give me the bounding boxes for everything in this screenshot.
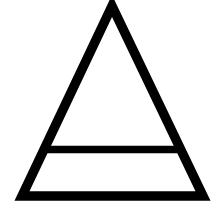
symbol-canvas	[0, 0, 223, 215]
triangle-with-crossbar-icon	[0, 0, 223, 215]
triangle-outline	[22, 6, 203, 196]
